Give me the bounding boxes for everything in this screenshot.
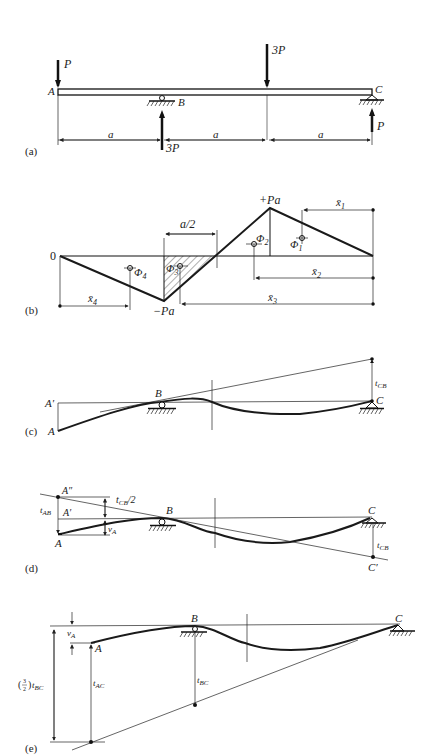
svg-text:Φ2: Φ2 [256, 232, 268, 247]
beam-deflection-figure: P A 3P B 3P C [0, 0, 438, 756]
point-b-label: B [166, 504, 173, 516]
centroid-2 [246, 242, 262, 281]
load-arrow-p-at-a [55, 60, 61, 88]
ratio-label: ( 3 2 ) tBC [18, 678, 44, 692]
point-a-prime-label: A′ [44, 397, 55, 409]
svg-text:tAB: tAB [40, 505, 52, 517]
panel-b: 0 +Pa −Pa a/2 Φ1 Φ2 Φ3 [25, 193, 375, 318]
svg-text:tBC: tBC [197, 675, 209, 687]
panel-label-a: (a) [25, 145, 38, 158]
panel-label-b: (b) [25, 304, 38, 317]
roller-support-b [147, 96, 175, 107]
svg-text:tCB/2: tCB/2 [116, 494, 136, 507]
point-c-label: C [368, 504, 376, 516]
moment-diagram-line [60, 208, 373, 301]
elastic-curve-e [91, 625, 398, 650]
panel-label-d: (d) [25, 562, 38, 575]
panel-a: P A 3P B 3P C [25, 43, 385, 158]
zero-label: 0 [50, 249, 56, 263]
panel-e: A B C vA tAC tBC ( 3 2 ) tBC (e) [18, 612, 415, 755]
svg-text:Φ4: Φ4 [134, 266, 146, 281]
point-c-label: C [395, 612, 403, 624]
panel-c: A′ A B C tCB (c) [25, 357, 387, 438]
min-moment-label: −Pa [153, 304, 174, 318]
point-a-label: A [47, 85, 55, 97]
point-c-label: C [376, 394, 384, 406]
svg-text:tBC: tBC [32, 680, 44, 692]
svg-text:vA: vA [108, 524, 117, 536]
panel-label-c: (c) [25, 425, 38, 438]
max-moment-label: +Pa [259, 193, 280, 207]
point-a-double-prime-label: A″ [61, 485, 73, 496]
point-a-label: A [54, 537, 62, 549]
span-label-2: a [213, 128, 219, 140]
pin-support-c [359, 95, 384, 105]
svg-text:vA: vA [67, 628, 76, 640]
point-b-label: B [155, 387, 162, 399]
half-a-label: a/2 [180, 217, 195, 231]
span-label-1: a [108, 128, 114, 140]
reaction-label-b: 3P [165, 141, 180, 155]
reaction-label-c: P [376, 119, 385, 133]
svg-text:x̄4: x̄4 [87, 292, 97, 307]
svg-text:tAC: tAC [93, 678, 105, 690]
svg-text:2: 2 [23, 686, 26, 692]
tangent-line-c [72, 640, 358, 750]
beam [58, 89, 372, 95]
svg-text:(: ( [18, 679, 22, 691]
point-b-label: B [191, 612, 198, 624]
point-a-prime-label: A′ [62, 507, 72, 518]
reaction-arrow-3p-b [159, 110, 165, 150]
point-c-prime-label: C′ [368, 561, 378, 573]
point-a-label: A [94, 642, 102, 654]
svg-text:x̄1: x̄1 [335, 196, 345, 211]
elastic-curve-c [58, 399, 372, 431]
load-label-mid: 3P [271, 43, 286, 57]
point-b-label: B [178, 96, 185, 108]
point-c-label: C [375, 83, 383, 95]
svg-text:3: 3 [23, 678, 26, 684]
svg-text:tCB: tCB [377, 540, 389, 552]
point-a-label: A [47, 425, 55, 437]
panel-d: A″ A′ A B C C′ tAB tCB/2 vA tCB (d) [25, 485, 389, 575]
span-label-3: a [318, 128, 324, 140]
panel-label-e: (e) [25, 742, 38, 755]
svg-text:): ) [28, 679, 31, 691]
load-label-a: P [63, 57, 72, 71]
svg-text:tCB: tCB [375, 378, 387, 390]
